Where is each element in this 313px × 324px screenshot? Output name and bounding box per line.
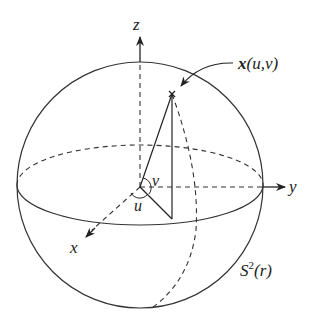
point-label: x(u,v) bbox=[237, 54, 278, 73]
point-label-args: (u,v) bbox=[247, 54, 279, 73]
y-axis-label: y bbox=[287, 177, 297, 196]
angle-u-label: u bbox=[134, 197, 142, 214]
sphere-diagram: z y x v u x(u,v) S2(r) bbox=[0, 0, 313, 324]
angle-v-label: v bbox=[152, 172, 160, 189]
x-axis-label: x bbox=[69, 238, 78, 257]
base-line bbox=[140, 187, 172, 219]
surface-label: S2(r) bbox=[240, 259, 272, 280]
surface-label-arg: (r) bbox=[254, 261, 272, 280]
meridian-dashed bbox=[152, 94, 197, 308]
point-label-bold: x bbox=[237, 54, 247, 73]
x-axis-dashed bbox=[92, 187, 140, 230]
z-axis-label: z bbox=[132, 15, 140, 34]
x-axis-arrow bbox=[86, 228, 95, 237]
